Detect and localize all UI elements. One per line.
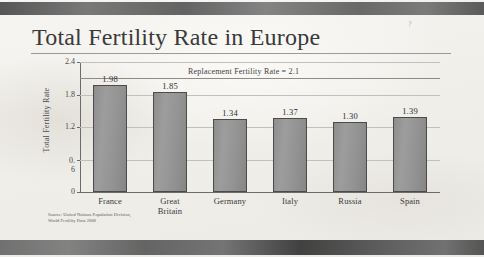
bar-value-label: 1.98 — [80, 74, 140, 84]
bar-great-britain — [153, 92, 187, 192]
bar-group: 1.34Germany — [200, 62, 260, 192]
x-category-label: Russia — [320, 196, 380, 206]
bar-value-label: 1.30 — [320, 111, 380, 121]
x-category-label: Spain — [380, 196, 440, 206]
x-axis-line — [80, 192, 440, 193]
source-line-2: World Fertility Data 2008 — [48, 218, 131, 224]
bar-chart: Total Fertility Rate 00.61.21.82.4 Repla… — [48, 62, 448, 212]
x-category-label: Germany — [200, 196, 260, 206]
y-tick-label: 2.4 — [50, 58, 75, 66]
bar-germany — [213, 119, 247, 192]
bar-russia — [333, 122, 367, 192]
title-underline — [31, 53, 451, 54]
corner-mark: ? — [408, 20, 422, 42]
x-category-label: France — [80, 196, 140, 206]
bar-series: 1.98France1.85GreatBritain1.34Germany1.3… — [80, 62, 440, 192]
y-tick-label: 0 — [50, 188, 75, 196]
slide-photo: Total Fertility Rate in Europe ? Total F… — [0, 0, 484, 257]
bar-italy — [273, 118, 307, 192]
bar-group: 1.39Spain — [380, 62, 440, 192]
y-tick-label: 0.6 — [50, 156, 75, 174]
bar-group: 1.98France — [80, 62, 140, 192]
photo-band-top — [0, 2, 484, 15]
bar-group: 1.30Russia — [320, 62, 380, 192]
bar-spain — [393, 117, 427, 192]
bar-group: 1.37Italy — [260, 62, 320, 192]
photo-band-bottom — [0, 240, 484, 255]
bar-value-label: 1.37 — [260, 107, 320, 117]
y-tick-label: 1.8 — [50, 91, 75, 99]
page-title: Total Fertility Rate in Europe — [32, 23, 320, 51]
y-tick-label: 1.2 — [50, 123, 75, 131]
y-tick-mark — [77, 192, 80, 193]
bar-value-label: 1.34 — [200, 108, 260, 118]
x-category-label: Italy — [260, 196, 320, 206]
bar-group: 1.85GreatBritain — [140, 62, 200, 192]
bar-value-label: 1.85 — [140, 81, 200, 91]
plot-area: 00.61.21.82.4 Replacement Fertility Rate… — [80, 62, 440, 192]
bar-value-label: 1.39 — [380, 106, 440, 116]
x-category-label: GreatBritain — [140, 196, 200, 216]
source-note: Source: United Nations Population Divisi… — [48, 212, 131, 224]
bar-france — [93, 85, 127, 192]
